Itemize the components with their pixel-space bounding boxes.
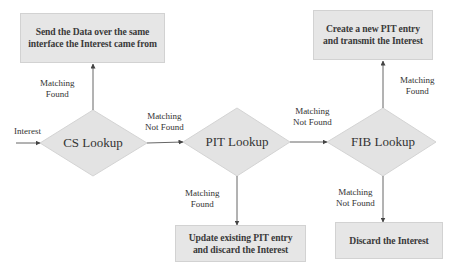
fib-to-create-label: Matching Found	[400, 75, 435, 97]
send-data-box: Send the Data over the same interface th…	[20, 13, 165, 63]
cs-to-send-label-line1: Matching	[40, 78, 75, 89]
cs-to-send-label-line2: Found	[40, 89, 75, 100]
pit-to-update-label-line2: Found	[185, 199, 220, 210]
fib-to-discard-label: Matching Not Found	[336, 187, 375, 209]
pit-to-update-label: Matching Found	[185, 188, 220, 210]
fib-to-create-label-line2: Found	[400, 86, 435, 97]
cs-lookup-label: CS Lookup	[63, 135, 123, 151]
cs-to-pit-label-line2: Not Found	[145, 122, 184, 133]
pit-to-fib-label-line2: Not Found	[293, 117, 332, 128]
send-data-line2: interface the Interest came from	[28, 38, 157, 50]
fib-to-discard-label-line1: Matching	[336, 187, 375, 198]
cs-to-pit-label-line1: Matching	[145, 111, 184, 122]
update-pit-line1: Update existing PIT entry	[189, 232, 293, 244]
update-pit-line2: and discard the Interest	[189, 244, 293, 256]
pit-to-fib-label-line1: Matching	[293, 106, 332, 117]
cs-to-pit-label: Matching Not Found	[145, 111, 184, 133]
update-pit-box: Update existing PIT entry and discard th…	[175, 225, 306, 262]
pit-to-fib-label: Matching Not Found	[293, 106, 332, 128]
discard-line1: Discard the Interest	[349, 235, 428, 247]
cs-to-send-label: Matching Found	[40, 78, 75, 100]
pit-lookup-label: PIT Lookup	[206, 134, 269, 150]
create-pit-line1: Create a new PIT entry	[323, 23, 423, 35]
create-pit-line2: and transmit the Interest	[323, 35, 423, 47]
create-pit-box: Create a new PIT entry and transmit the …	[313, 10, 433, 60]
send-data-line1: Send the Data over the same	[28, 26, 157, 38]
discard-box: Discard the Interest	[335, 222, 443, 259]
interest-input-label: Interest	[14, 126, 41, 137]
fib-to-create-label-line1: Matching	[400, 75, 435, 86]
fib-to-discard-label-line2: Not Found	[336, 198, 375, 209]
fib-lookup-label: FIB Lookup	[351, 134, 415, 150]
pit-to-update-label-line1: Matching	[185, 188, 220, 199]
cs-to-pit-arrow	[147, 142, 183, 143]
